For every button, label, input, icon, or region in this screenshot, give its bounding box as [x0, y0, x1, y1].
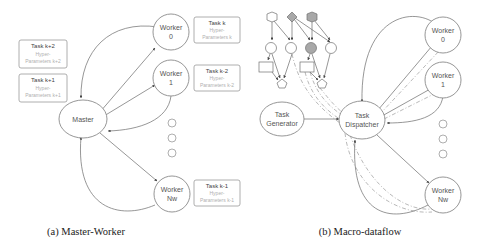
task-box-k1: Task k+1 Hyper- Parameters k+1: [19, 74, 67, 102]
dispatcher-label-2: Dispatcher: [345, 121, 379, 129]
worker-0-node: [153, 14, 189, 50]
edge-master-to-worker1: [104, 85, 155, 116]
task-box-k-1: Task k-1 Hyper- Parameters k-1: [194, 180, 240, 206]
task-box-k2: Task k+2 Hyper- Parameters k+2: [19, 40, 67, 68]
task-box-k: Task k Hyper- Parameters k: [194, 17, 240, 43]
caption-a: (a) Master-Worker: [47, 226, 125, 238]
panel-macro-dataflow: Task Generator Task Dispatcher Worker 0 …: [259, 12, 461, 238]
edge-master-to-worker0: [100, 48, 155, 112]
worker-nw-node: [425, 177, 461, 213]
master-label: Master: [72, 116, 94, 123]
task-sub: Parameters k+2: [25, 58, 61, 64]
task-sub: Parameters k-1: [200, 197, 234, 203]
dispatcher-label: Task: [355, 112, 370, 119]
diagram-canvas: Master Worker 0 Worker 1 Worker Nw Task …: [0, 0, 481, 242]
dag-node: [286, 43, 297, 54]
ellipsis-dot: [168, 134, 176, 142]
worker-1-label: Worker: [432, 72, 455, 79]
worker-1-label: Worker: [160, 70, 183, 77]
task-sub: Parameters k: [202, 34, 232, 40]
task-title: Task k: [208, 20, 226, 26]
dag-node-pentagon: [277, 79, 287, 88]
worker-0-node: [425, 17, 461, 53]
worker-nw-label: Worker: [161, 186, 184, 193]
dag-node-rect: [259, 62, 273, 72]
dag-node-gray: [306, 43, 317, 54]
edge-worker1-to-dispatcher: [387, 96, 443, 123]
worker-1-node: [425, 62, 461, 98]
worker-1-index: 1: [169, 79, 173, 86]
edge-worker0-to-master: [81, 26, 158, 98]
ellipsis-dot: [439, 120, 447, 128]
worker-nw-index: Nw: [167, 195, 178, 202]
task-generator-node: [260, 102, 304, 136]
task-dispatcher-node: [339, 101, 385, 139]
edge-master-to-workerNw: [100, 133, 157, 181]
generator-label-2: Generator: [266, 120, 298, 127]
caption-b: (b) Macro-dataflow: [319, 226, 402, 238]
worker-0-index: 0: [441, 36, 445, 43]
dag-node-pentagon: [317, 79, 327, 88]
worker-0-index: 0: [169, 33, 173, 40]
edge-worker1-to-master: [108, 96, 171, 131]
worker-0-label: Worker: [160, 24, 183, 31]
worker-0-label: Worker: [432, 27, 455, 34]
dag-node: [267, 12, 277, 22]
task-sub: Hyper-: [209, 75, 224, 81]
task-sub: Parameters k+1: [25, 92, 61, 98]
task-sub: Hyper-: [35, 51, 50, 57]
dag-node-rect: [300, 62, 314, 72]
task-sub: Hyper-: [209, 27, 224, 33]
dag-node-gray: [307, 12, 317, 22]
worker-nw-label: Worker: [432, 187, 455, 194]
generator-label: Task: [275, 111, 290, 118]
worker-nw-node: [154, 176, 190, 212]
task-title: Task k-2: [206, 68, 229, 74]
task-box-k-2: Task k-2 Hyper- Parameters k-2: [194, 65, 240, 91]
edge-dispatcher-to-workerNw: [377, 135, 429, 183]
task-sub: Hyper-: [209, 190, 224, 196]
task-title: Task k-1: [206, 183, 229, 189]
ellipsis-dot: [168, 119, 176, 127]
dag-node: [326, 43, 337, 54]
worker-nw-index: Nw: [438, 196, 449, 203]
ellipsis-dot: [439, 135, 447, 143]
edge-dispatcher-to-worker0: [378, 46, 432, 110]
task-sub: Parameters k-2: [200, 82, 234, 88]
worker-1-node: [153, 60, 189, 96]
ellipsis-dot: [439, 150, 447, 158]
dag-node: [266, 43, 277, 54]
edge-dispatcher-to-worker1: [382, 88, 432, 116]
worker-1-index: 1: [441, 81, 445, 88]
panel-master-worker: Master Worker 0 Worker 1 Worker Nw Task …: [19, 14, 240, 238]
task-title: Task k+2: [31, 43, 56, 49]
ellipsis-dot: [168, 149, 176, 157]
task-sub: Hyper-: [35, 85, 50, 91]
task-title: Task k+1: [31, 77, 56, 83]
